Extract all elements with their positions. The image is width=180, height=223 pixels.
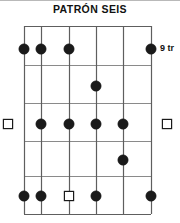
note-marker-filled-s4-f5 <box>91 191 101 201</box>
note-marker-filled-s6-f1 <box>146 44 156 54</box>
note-marker-filled-s2-f1 <box>36 44 46 54</box>
root-marker-hollow-s1-f3 <box>3 119 12 128</box>
note-marker-filled-s1-f1 <box>19 44 29 54</box>
note-marker-filled-s4-f2 <box>91 81 101 91</box>
root-marker-hollow-s3-f5 <box>64 191 73 200</box>
note-marker-filled-s2-f5 <box>36 191 46 201</box>
note-marker-filled-s5-f4 <box>118 155 128 165</box>
scale-pattern-diagram: PATRÓN SEIS 9 tr <box>0 0 180 223</box>
note-marker-filled-s6-f5 <box>146 191 156 201</box>
fretboard-grid <box>0 0 180 223</box>
note-marker-filled-s4-f3 <box>91 119 101 129</box>
note-marker-filled-s3-f1 <box>64 44 74 54</box>
root-marker-hollow-s6-f3 <box>162 119 171 128</box>
note-marker-filled-s5-f3 <box>118 119 128 129</box>
note-marker-filled-s2-f3 <box>36 119 46 129</box>
fret-position-label: 9 tr <box>160 43 174 53</box>
note-marker-filled-s3-f3 <box>64 119 74 129</box>
note-marker-filled-s1-f5 <box>19 191 29 201</box>
